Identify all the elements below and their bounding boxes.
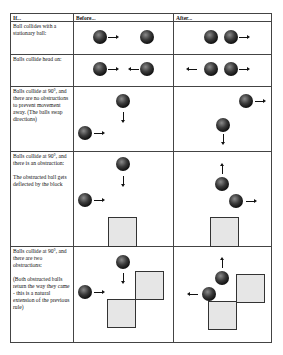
arrow-down-icon [123,273,124,282]
arrow-left-icon [130,69,139,70]
ball [202,287,216,301]
ball [224,30,238,44]
arrow-up-icon [222,165,223,174]
ball [78,126,92,140]
header-before: Before... [74,14,98,22]
arrow-right-icon [94,133,103,134]
arrow-left-icon [189,294,198,295]
column-divider [173,14,174,342]
ball [204,30,218,44]
ball [215,177,229,191]
obstruction-block [108,217,137,247]
arrow-right-icon [108,37,117,38]
arrow-down-icon [123,112,124,121]
row-label-90-two-obstructions: Balls collide at 90°, and there are two … [13,248,71,311]
arrow-up-icon [222,259,223,268]
collision-rules-table: If... Before... After... Ball collides w… [10,13,272,343]
arrow-right-icon [239,69,248,70]
ball [140,62,154,76]
row-label-stationary: Ball collides with a stationary ball: [13,23,71,37]
obstruction-block [107,299,136,328]
header-if: If... [11,14,23,22]
column-divider [73,14,74,342]
ball [140,30,154,44]
ball [116,255,130,269]
obstruction-block [236,274,265,303]
obstruction-block [135,271,164,300]
ball [239,94,253,108]
row-divider [11,151,271,152]
arrow-left-icon [188,69,197,70]
ball [224,62,238,76]
ball [215,271,229,285]
ball [78,193,92,207]
header-after: After... [174,14,194,22]
ball [78,285,92,299]
row-label-head-on: Balls collide head on: [13,56,71,63]
arrow-down-icon [223,134,224,143]
row-divider [11,86,271,87]
arrow-right-icon [239,37,248,38]
arrow-down-icon [123,176,124,185]
ball [229,194,243,208]
obstruction-block [210,217,239,247]
row-label-90-one-obstruction: Balls collide at 90°, and there is an ob… [13,153,71,188]
ball [116,157,130,171]
ball [93,30,107,44]
ball [204,62,218,76]
ball [216,118,230,132]
arrow-right-icon [108,69,117,70]
arrow-right-icon [255,101,264,102]
obstruction-block [208,301,237,330]
ball [116,94,130,108]
ball [93,62,107,76]
arrow-right-icon [246,201,255,202]
row-divider [11,21,271,22]
row-divider [11,54,271,55]
arrow-right-icon [94,200,103,201]
arrow-right-icon [94,292,103,293]
row-label-90-no-obstruction: Balls collide at 90°, and there are no o… [13,88,71,123]
